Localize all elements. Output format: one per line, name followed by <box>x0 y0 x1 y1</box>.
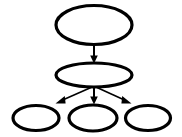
diagram-canvas <box>0 0 182 137</box>
node-middle[interactable] <box>56 63 132 87</box>
arrowhead-middle-to-leaf-left <box>56 96 66 104</box>
node-leaf-right-shape[interactable] <box>126 106 171 131</box>
node-leaf-center[interactable] <box>69 105 117 131</box>
node-tree-diagram <box>0 0 182 137</box>
node-layer <box>13 6 171 132</box>
edge-middle-to-leaf-left-line <box>62 88 92 101</box>
node-leaf-right[interactable] <box>126 106 171 131</box>
edge-middle-to-leaf-right <box>97 88 132 104</box>
node-leaf-center-shape[interactable] <box>69 105 117 131</box>
edge-middle-to-leaf-left <box>56 88 92 104</box>
node-root[interactable] <box>56 6 132 45</box>
edge-root-to-middle <box>90 45 98 64</box>
edge-middle-to-leaf-center <box>90 88 98 105</box>
node-root-shape[interactable] <box>56 6 132 45</box>
node-leaf-left[interactable] <box>13 106 59 131</box>
node-leaf-left-shape[interactable] <box>13 106 59 131</box>
node-middle-shape[interactable] <box>56 63 132 87</box>
arrowhead-middle-to-leaf-center <box>90 97 98 105</box>
edge-middle-to-leaf-right-line <box>97 88 126 101</box>
arrowhead-middle-to-leaf-right <box>121 96 131 104</box>
